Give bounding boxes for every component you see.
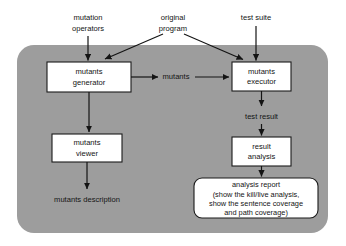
external-input-test-suite: test suite (241, 13, 271, 22)
mutants-executor-line-1: mutants (248, 67, 275, 76)
analysis-report-line-3: show the sentence coverage (209, 199, 303, 208)
mutants-generator-line-1: mutants (75, 67, 102, 76)
mutants-generator-line-2: generator (73, 78, 106, 87)
mutants-viewer-line-2: viewer (76, 149, 98, 158)
diagram-canvas: mutation operators original program test… (0, 0, 346, 246)
analysis-report-line-1: analysis report (232, 180, 280, 189)
architecture-diagram: mutation operators original program test… (0, 0, 346, 246)
mutants-executor-line-2: executor (247, 77, 277, 86)
external-input-mutation-operators: mutation operators (72, 13, 104, 33)
node-mutants-generator[interactable]: mutants generator (47, 62, 131, 92)
mutants-edge-label: mutants (162, 72, 189, 81)
original-program-line-1: original (161, 13, 186, 22)
result-analysis-line-2: analysis (248, 152, 276, 161)
node-result-analysis[interactable]: result analysis (232, 137, 291, 166)
node-mutants-viewer[interactable]: mutants viewer (52, 134, 122, 162)
test-suite-line-1: test suite (241, 13, 271, 22)
mutation-operators-line-1: mutation (73, 13, 102, 22)
node-mutants-executor[interactable]: mutants executor (232, 62, 291, 91)
result-analysis-line-1: result (252, 142, 271, 151)
original-program-line-2: program (159, 24, 187, 33)
external-input-original-program: original program (159, 13, 187, 33)
analysis-report-line-4: and path coverage) (224, 208, 288, 217)
mutants-description-edge-label: mutants description (54, 195, 120, 204)
test-result-edge-label: test result (245, 112, 279, 121)
node-analysis-report[interactable]: analysis report (show the kill/live anal… (194, 178, 318, 218)
analysis-report-line-2: (show the kill/live analysis, (213, 190, 300, 199)
mutants-viewer-line-1: mutants (73, 138, 100, 147)
mutation-operators-line-2: operators (72, 24, 104, 33)
